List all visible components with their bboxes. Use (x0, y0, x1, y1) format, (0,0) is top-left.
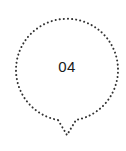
step-marker: 04 (0, 0, 126, 151)
dotted-pin-outline-icon (0, 0, 126, 151)
step-number: 04 (0, 58, 126, 75)
